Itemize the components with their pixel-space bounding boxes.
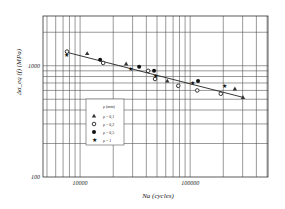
data-point [98, 58, 102, 62]
x-tick-label: 100000 [181, 180, 199, 186]
data-point [146, 69, 150, 73]
y-axis-label: Δσ_eq (f) (MPa) [15, 48, 23, 96]
data-point [85, 51, 89, 55]
data-point: ★ [128, 66, 133, 72]
legend-title: ρ (mm) [103, 104, 116, 109]
data-point [196, 79, 200, 83]
data-point [219, 92, 223, 96]
legend-marker-icon: ★ [92, 137, 97, 143]
data-point [233, 87, 237, 91]
data-point: ★ [190, 80, 195, 86]
plot-frame [43, 16, 268, 177]
legend: ρ (mm) ρ = 0,1ρ = 0,2ρ = 0,5★ρ = 1 [86, 99, 124, 145]
data-point: ★ [222, 83, 227, 89]
data-points: ★★★★★ [64, 50, 245, 99]
x-tick-label: 10000 [73, 180, 88, 186]
data-point [101, 61, 105, 65]
data-point [176, 84, 180, 88]
legend-marker-icon [92, 122, 96, 126]
data-point: ★ [64, 52, 69, 58]
fatigue-chart: ★★★★★ 100 1000 10000 100000 Na (cycles) … [0, 0, 285, 209]
y-tick-label: 1000 [28, 63, 40, 69]
x-axis-label: Na (cycles) [141, 192, 174, 200]
legend-label: ρ = 1 [103, 138, 111, 143]
y-tick-label: 100 [31, 174, 40, 180]
grid-lines [43, 16, 268, 177]
legend-marker-icon [92, 130, 96, 134]
data-point [137, 65, 141, 69]
data-point [195, 89, 199, 93]
data-point: ★ [153, 73, 158, 79]
